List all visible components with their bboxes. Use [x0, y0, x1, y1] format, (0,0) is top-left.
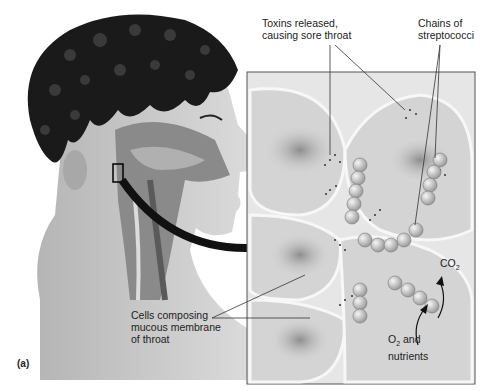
- cells-label: Cells composing mucous membrane of throa…: [131, 309, 221, 345]
- toxins-label: Toxins released, causing sore throat: [262, 17, 351, 41]
- magnified-inset: [247, 72, 475, 384]
- streptococci-label: Chains of streptococci: [418, 17, 474, 41]
- ear: [63, 150, 87, 190]
- o2-nutrients-label: O2 and nutrients: [388, 333, 428, 362]
- co2-label: CO2: [440, 257, 460, 274]
- panel-label: (a): [17, 358, 29, 370]
